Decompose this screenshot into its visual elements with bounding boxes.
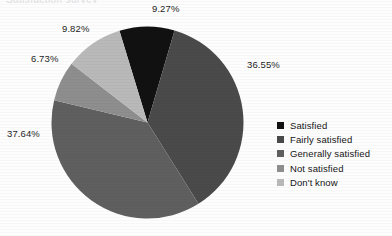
legend-swatch-icon [277,165,284,172]
slice-label-dont-know: 9.82% [62,23,89,34]
legend-swatch-icon [277,179,284,186]
slice-label-generally-satisfied: 37.64% [7,128,40,139]
slice-label-not-satisfied: 6.73% [31,53,58,64]
legend-swatch-icon [277,150,284,157]
legend-item-label: Fairly satisfied [290,134,352,145]
legend-item: Generally satisfied [277,148,370,159]
legend-item: Satisfied [277,120,370,131]
legend-item-label: Not satisfied [290,163,344,174]
legend-item-label: Generally satisfied [290,148,370,159]
legend-item: Fairly satisfied [277,134,370,145]
legend-item-label: Don't know [290,177,338,188]
legend-item: Don't know [277,177,370,188]
legend-item: Not satisfied [277,163,370,174]
pie-chart-figure: Satisfaction survey 9.27% 36.55% 37.64% … [0,0,392,236]
pie-graphic [51,26,244,219]
slice-label-fairly-satisfied: 36.55% [247,59,280,70]
legend-swatch-icon [277,122,284,129]
legend-item-label: Satisfied [290,120,327,131]
legend-swatch-icon [277,136,284,143]
chart-legend: SatisfiedFairly satisfiedGenerally satis… [277,120,370,188]
slice-label-satisfied: 9.27% [152,3,179,14]
pie-svg [51,26,244,219]
clipped-title-text: Satisfaction survey [6,0,126,3]
